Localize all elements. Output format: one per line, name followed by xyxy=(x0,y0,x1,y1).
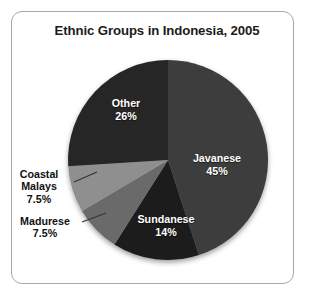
pie-chart-figure: Ethnic Groups in Indonesia, 2005 xyxy=(0,0,314,295)
slice-label-sundanese-value: 14% xyxy=(120,226,212,239)
slice-label-coastal-malays-line2: Malays xyxy=(21,180,57,192)
slice-label-javanese-value: 45% xyxy=(174,165,260,178)
slice-label-other-value: 26% xyxy=(86,110,166,123)
slice-label-sundanese: Sundanese 14% xyxy=(120,213,212,238)
slice-label-other: Other 26% xyxy=(86,97,166,122)
slice-label-coastal-malays-line1: Coastal xyxy=(20,168,59,180)
slice-label-javanese-name: Javanese xyxy=(193,152,241,164)
slice-label-madurese-value: 7.5% xyxy=(33,227,57,239)
slice-label-coastal-malays: Coastal Malays 7.5% xyxy=(2,168,76,205)
chart-title: Ethnic Groups in Indonesia, 2005 xyxy=(0,23,314,38)
slice-label-javanese: Javanese 45% xyxy=(174,152,260,177)
slice-label-coastal-malays-value: 7.5% xyxy=(27,193,51,205)
slice-label-other-name: Other xyxy=(112,97,141,109)
slice-label-madurese: Madurese 7.5% xyxy=(8,215,82,240)
slice-label-sundanese-name: Sundanese xyxy=(137,213,194,225)
slice-label-madurese-name: Madurese xyxy=(20,215,70,227)
